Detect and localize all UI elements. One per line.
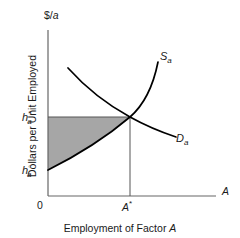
h-zero-axis-label: h◦a bbox=[22, 163, 31, 179]
demand-curve-label: Da bbox=[176, 133, 188, 147]
economics-factor-market-chart: $/a Dollars per Unit Employed Employment… bbox=[0, 0, 240, 238]
x-axis-variable-label: A bbox=[222, 186, 229, 197]
a-star-tick-label: A* bbox=[122, 200, 132, 212]
origin-label: 0 bbox=[37, 200, 43, 211]
supply-curve-label: Sa bbox=[160, 51, 172, 65]
producer-surplus-shaded-region bbox=[48, 117, 130, 170]
y-axis-unit-label: $/a bbox=[44, 10, 59, 21]
x-axis-title: Employment of Factor A bbox=[0, 223, 240, 234]
h-star-axis-label: h*a bbox=[22, 110, 32, 126]
